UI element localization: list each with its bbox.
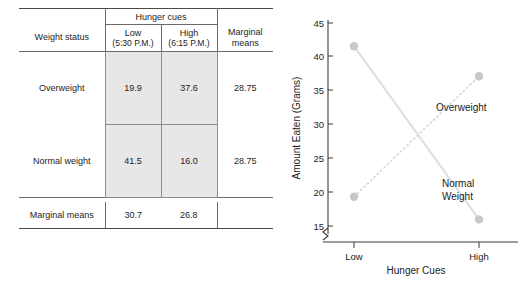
y-tick-label-25: 25 xyxy=(313,153,324,164)
header-blank-cell-right xyxy=(217,9,273,25)
table-header-row: Weight status Low (5:30 P.M.) High (6:15… xyxy=(19,24,273,52)
table-row: Normal weight 41.5 16.0 28.75 xyxy=(19,125,273,198)
data-point-normal-weight-high xyxy=(475,215,483,223)
table-header-group-row: Hunger cues xyxy=(19,9,273,25)
y-tick-label-40: 40 xyxy=(313,51,324,62)
interaction-line-chart-panel: 45 40 35 30 25 20 15 Low High Hunger Cue… xyxy=(286,6,524,278)
column-header-high-line2: (6:15 P.M.) xyxy=(164,38,215,48)
column-header-low-line1: Low xyxy=(108,28,159,39)
cell-overweight-marginal: 28.75 xyxy=(217,52,273,125)
data-point-normal-weight-low xyxy=(350,42,358,50)
cell-marginal-low: 30.7 xyxy=(105,202,161,229)
column-header-low-line2: (5:30 P.M.) xyxy=(108,38,159,48)
series-label-overweight: Overweight xyxy=(436,102,487,113)
column-header-high-line1: High xyxy=(164,28,215,39)
cell-marginal-high: 26.8 xyxy=(161,202,217,229)
table-row: Overweight 19.9 37.6 28.75 xyxy=(19,52,273,125)
column-header-marginal-means: Marginal means xyxy=(217,24,273,52)
means-table-panel: Hunger cues Weight status Low (5:30 P.M.… xyxy=(19,8,273,270)
cell-normal-low: 41.5 xyxy=(105,125,161,198)
x-tick-label-low: Low xyxy=(345,251,363,262)
y-axis-title: Amount Eaten (Grams) xyxy=(291,77,302,180)
table-row-marginal-means: Marginal means 30.7 26.8 xyxy=(19,202,273,229)
x-tick-label-high: High xyxy=(469,251,489,262)
series-label-normal-weight-line1: Normal xyxy=(442,178,474,189)
row-label-normal-weight: Normal weight xyxy=(19,125,105,198)
cell-normal-high: 16.0 xyxy=(161,125,217,198)
header-blank-cell xyxy=(19,9,105,25)
y-axis-ticks xyxy=(328,23,333,226)
y-tick-label-35: 35 xyxy=(313,85,324,96)
y-tick-label-15: 15 xyxy=(313,221,324,232)
row-label-marginal-means: Marginal means xyxy=(19,202,105,229)
column-header-high: High (6:15 P.M.) xyxy=(161,24,217,52)
y-tick-label-30: 30 xyxy=(313,119,324,130)
cell-normal-marginal: 28.75 xyxy=(217,125,273,198)
cell-marginal-corner xyxy=(217,202,273,229)
group-header-hunger-cues: Hunger cues xyxy=(105,9,217,25)
figure-root: Hunger cues Weight status Low (5:30 P.M.… xyxy=(0,0,526,282)
x-axis-title: Hunger Cues xyxy=(387,265,446,276)
interaction-line-chart: 45 40 35 30 25 20 15 Low High Hunger Cue… xyxy=(286,6,524,278)
y-tick-label-45: 45 xyxy=(313,18,324,29)
column-header-weight-status: Weight status xyxy=(19,24,105,52)
cell-overweight-low: 19.9 xyxy=(105,52,161,125)
column-header-marginal-line2: means xyxy=(220,38,272,49)
cell-overweight-high: 37.6 xyxy=(161,52,217,125)
column-header-marginal-line1: Marginal xyxy=(220,27,272,38)
row-label-overweight: Overweight xyxy=(19,52,105,125)
means-table: Hunger cues Weight status Low (5:30 P.M.… xyxy=(19,8,273,229)
data-point-overweight-high xyxy=(475,72,483,80)
data-point-overweight-low xyxy=(350,193,358,201)
series-label-normal-weight-line2: Weight xyxy=(442,191,473,202)
column-header-low: Low (5:30 P.M.) xyxy=(105,24,161,52)
y-tick-label-20: 20 xyxy=(313,187,324,198)
